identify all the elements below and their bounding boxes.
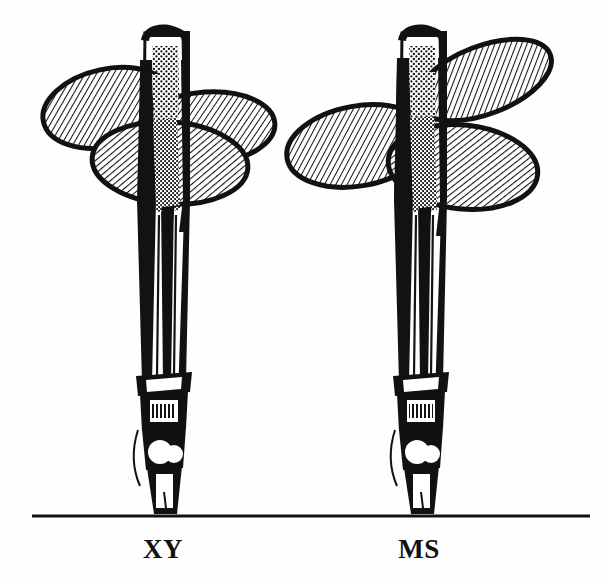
- line-art-illustration: [0, 0, 609, 585]
- specimen-label-ms: MS: [398, 534, 440, 565]
- specimen-label-xy: XY: [143, 534, 183, 565]
- figure-canvas: XY MS: [0, 0, 609, 585]
